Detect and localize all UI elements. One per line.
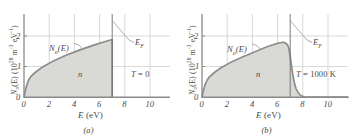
x-tick-label-4-b: 4	[250, 100, 254, 109]
x-tick-label-0-a: 0	[22, 100, 26, 109]
curve-label-b: No(E)	[227, 45, 247, 56]
fermi-energy-label-b: EF	[313, 38, 322, 49]
y-tick-label-2-a: 2	[16, 32, 20, 41]
x-tick-label-8-b: 8	[300, 100, 304, 109]
x-tick-label-6-b: 6	[275, 100, 279, 109]
x-axis-title-b: E (eV)	[256, 111, 281, 120]
y-tick-label-0-a: 0	[16, 93, 20, 102]
panel-caption-b: (b)	[178, 126, 355, 135]
fermi-energy-label-a: EF	[135, 38, 144, 49]
x-tick-label-10-b: 10	[324, 100, 333, 109]
x-tick-label-2-b: 2	[225, 100, 229, 109]
temperature-annotation-b: T = 1000 K	[296, 70, 336, 79]
occupied-region-label-a: n	[78, 70, 82, 79]
y-tick-label-1-b: 1	[195, 62, 199, 71]
curve-label-a: No(E)	[49, 44, 69, 55]
x-tick-label-2-a: 2	[47, 100, 51, 109]
figure-container: No(E) (1028 m-3 eV-1) 0 1 2 0 2 4 6 8 10…	[0, 0, 355, 137]
x-tick-label-8-a: 8	[122, 100, 126, 109]
y-tick-label-1-a: 1	[17, 62, 21, 71]
panel-a: No(E) (1028 m-3 eV-1) 0 1 2 0 2 4 6 8 10…	[0, 0, 177, 137]
x-tick-label-4-a: 4	[72, 100, 76, 109]
x-tick-label-0-b: 0	[200, 100, 204, 109]
x-tick-label-6-a: 6	[97, 100, 101, 109]
y-tick-label-2-b: 2	[194, 32, 198, 41]
x-axis-title-a: E (eV)	[78, 111, 103, 120]
fermi-leader-line-a	[113, 21, 134, 43]
x-tick-label-10-a: 10	[146, 100, 155, 109]
y-tick-label-0-b: 0	[194, 93, 198, 102]
temperature-annotation-a: T = 0	[131, 70, 150, 79]
fermi-leader-line-b	[291, 21, 312, 43]
occupied-region-label-b: n	[256, 70, 260, 79]
panel-caption-a: (a)	[0, 126, 177, 135]
panel-b: No(E) (1028 m-3 eV-1) 0 1 2 0 2 4 6 8 10…	[178, 0, 355, 137]
